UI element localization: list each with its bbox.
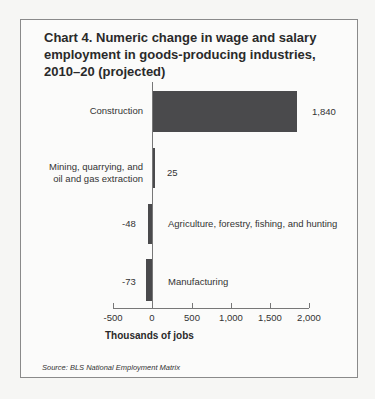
x-tick [113,303,114,308]
value-label-mining: 25 [167,167,178,178]
x-tick [270,303,271,308]
x-tick [231,303,232,308]
bar-manufacturing [146,259,152,301]
bar-mining [153,148,155,188]
x-tick [309,303,310,308]
chart-title: Chart 4. Numeric change in wage and sala… [44,29,354,80]
x-tick-label: 1,500 [258,312,282,323]
category-label-mining-line1: Mining, quarrying, and [30,161,143,173]
bar-construction [153,91,297,132]
x-tick-label: 500 [184,312,200,323]
x-tick-label: 0 [149,312,154,323]
x-tick [192,303,193,308]
x-tick-label: 1,000 [219,312,243,323]
value-label-construction: 1,840 [312,106,336,117]
bar-agriculture [148,204,152,244]
x-axis-title: Thousands of jobs [105,330,194,341]
category-label-manufacturing: Manufacturing [168,276,228,288]
category-label-mining: Mining, quarrying, and oil and gas extra… [30,161,143,185]
category-label-mining-line2: oil and gas extraction [30,173,143,185]
value-label-manufacturing: -73 [122,276,136,287]
x-tick [152,303,153,308]
source-note: Source: BLS National Employment Matrix [42,363,180,372]
x-tick-label: -500 [103,312,122,323]
category-label-construction: Construction [40,105,143,117]
x-axis-line [113,308,309,309]
x-tick-label: 2,000 [297,312,321,323]
value-label-agriculture: -48 [122,218,136,229]
category-label-agriculture: Agriculture, forestry, fishing, and hunt… [168,218,337,230]
